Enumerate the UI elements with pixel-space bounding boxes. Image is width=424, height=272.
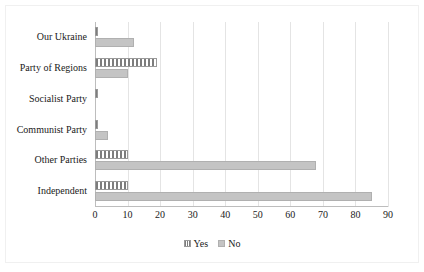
x-tick-40: 40	[220, 209, 230, 220]
y-axis-label-communist-party: Communist Party	[17, 115, 87, 146]
y-axis-label-party-of-regions: Party of Regions	[20, 53, 87, 84]
legend-item-no[interactable]: No	[218, 238, 240, 249]
bar-row	[95, 176, 388, 207]
bar-row	[95, 53, 388, 84]
y-axis-label-socialist-party: Socialist Party	[29, 84, 87, 115]
x-tick-20: 20	[155, 209, 165, 220]
x-tick-30: 30	[188, 209, 198, 220]
bar-yes-socialist-party	[95, 89, 98, 98]
yes-swatch-icon	[184, 240, 191, 247]
y-axis-label-our-ukraine: Our Ukraine	[37, 22, 87, 53]
bar-no-our-ukraine	[95, 38, 134, 47]
bar-no-communist-party	[95, 131, 108, 140]
legend-label-no: No	[228, 238, 240, 249]
bar-no-other-parties	[95, 161, 316, 170]
bar-row	[95, 22, 388, 53]
bar-no-party-of-regions	[95, 69, 128, 78]
bar-row	[95, 115, 388, 146]
bar-row	[95, 84, 388, 115]
legend-label-yes: Yes	[194, 238, 209, 249]
gridline-90	[388, 22, 389, 207]
bar-yes-our-ukraine	[95, 27, 98, 36]
x-axis-line	[95, 206, 388, 207]
x-tick-60: 60	[285, 209, 295, 220]
x-tick-10: 10	[123, 209, 133, 220]
bar-no-independent	[95, 192, 372, 201]
bar-yes-party-of-regions	[95, 58, 157, 67]
bar-chart: Our UkraineParty of RegionsSocialist Par…	[0, 0, 424, 272]
x-tick-0: 0	[93, 209, 98, 220]
no-swatch-icon	[218, 240, 225, 247]
bar-rows	[95, 22, 388, 207]
bar-yes-independent	[95, 181, 128, 190]
x-tick-80: 80	[350, 209, 360, 220]
plot-area	[95, 22, 388, 207]
x-tick-70: 70	[318, 209, 328, 220]
x-tick-50: 50	[253, 209, 263, 220]
bar-row	[95, 145, 388, 176]
y-axis-label-independent: Independent	[38, 176, 87, 207]
x-tick-90: 90	[383, 209, 393, 220]
y-axis-label-other-parties: Other Parties	[35, 145, 88, 176]
bar-yes-other-parties	[95, 150, 128, 159]
x-axis-tick-labels: 0102030405060708090	[95, 209, 388, 225]
bar-yes-communist-party	[95, 120, 98, 129]
chart-legend: YesNo	[0, 238, 424, 249]
legend-item-yes[interactable]: Yes	[184, 238, 209, 249]
y-axis-category-labels: Our UkraineParty of RegionsSocialist Par…	[0, 22, 91, 207]
